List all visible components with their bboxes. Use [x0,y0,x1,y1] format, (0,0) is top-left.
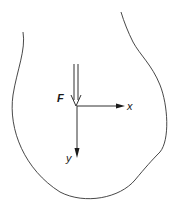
y-axis-label: y [65,152,73,164]
x-axis-arrowhead-icon [116,104,125,109]
free-body-diagram: F x y [0,0,178,209]
body-outline [12,12,167,199]
y-axis-arrowhead-icon [75,148,80,158]
y-axis [75,106,80,158]
x-axis [77,104,125,109]
force-arrowhead-icon [71,95,81,106]
x-axis-label: x [126,100,133,112]
force-label: F [57,92,64,104]
force-arrow [71,64,81,106]
